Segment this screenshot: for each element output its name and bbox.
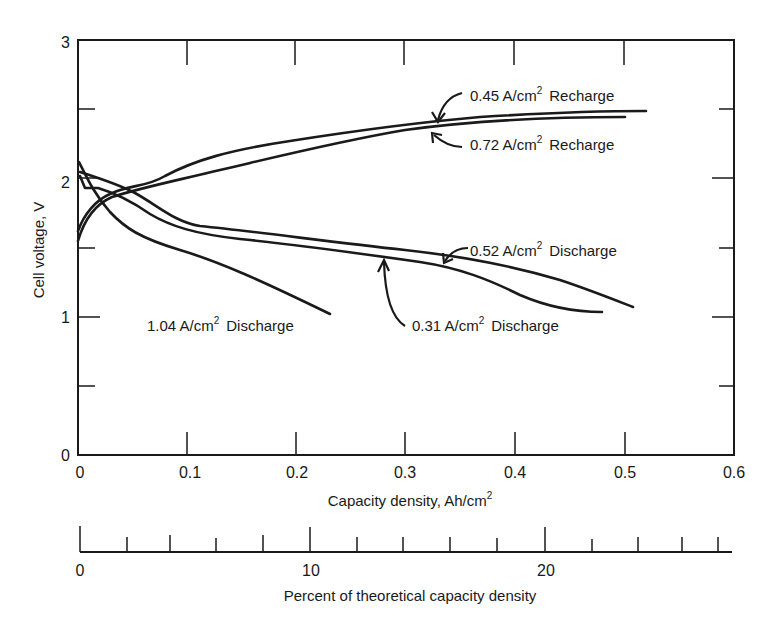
pct-tick-0: 0 <box>76 562 85 579</box>
plot-frame <box>78 40 734 455</box>
y-tick-2: 2 <box>61 174 70 191</box>
y-tick-0: 0 <box>61 447 70 464</box>
x-tick-0.2: 0.2 <box>286 464 308 481</box>
x-ticks-top <box>187 40 624 65</box>
x-tick-0.6: 0.6 <box>723 464 745 481</box>
chart-canvas: 0 1 2 3 0 0.1 0.2 0.3 0.4 0.5 0.6 Cell v… <box>0 0 770 624</box>
label-052-discharge: 0.52 A/cm2Discharge <box>470 240 617 259</box>
y-ticks-right <box>712 109 734 386</box>
y-tick-1: 1 <box>61 309 70 326</box>
secondary-axis-title: Percent of theoretical capacity density <box>284 587 537 604</box>
x-tick-0.4: 0.4 <box>504 464 526 481</box>
x-tick-0.5: 0.5 <box>614 464 636 481</box>
pct-tick-20: 20 <box>537 562 555 579</box>
y-axis-title: Cell voltage, V <box>30 202 47 299</box>
pct-tick-10: 10 <box>302 562 320 579</box>
label-031-discharge: 0.31 A/cm2Discharge <box>412 315 559 334</box>
secondary-percent-axis <box>80 526 732 552</box>
x-tick-0.3: 0.3 <box>394 464 416 481</box>
x-axis-title: Capacity density, Ah/cm2 <box>328 490 493 509</box>
x-tick-0: 0 <box>76 464 85 481</box>
x-ticks-bottom <box>187 432 625 455</box>
label-104-discharge: 1.04 A/cm2Discharge <box>147 315 294 334</box>
curve-052-discharge <box>80 172 633 307</box>
curve-045-recharge <box>78 111 646 231</box>
y-tick-3: 3 <box>61 34 70 51</box>
label-072-recharge: 0.72 A/cm2Recharge <box>470 134 614 153</box>
label-045-recharge: 0.45 A/cm2Recharge <box>470 85 614 104</box>
y-ticks-left <box>78 109 100 386</box>
x-tick-0.1: 0.1 <box>179 464 201 481</box>
